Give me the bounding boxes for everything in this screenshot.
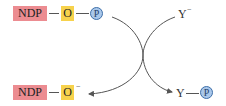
arrow-phosphate-to-y — [112, 17, 172, 92]
reaction-arrows — [0, 0, 226, 106]
arrow-y-to-oxygen — [89, 17, 175, 94]
reaction-diagram: NDP O P Y − NDP O − Y P — [0, 0, 226, 106]
